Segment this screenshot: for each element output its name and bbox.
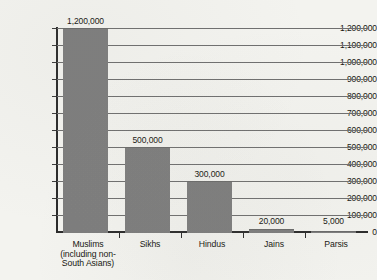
value-label-jains: 20,000 bbox=[249, 216, 294, 226]
value-label-hindus: 300,000 bbox=[187, 169, 232, 179]
x-axis-label-jains: Jains bbox=[243, 240, 305, 250]
x-axis-label-parsis-line1: Parsis bbox=[324, 239, 348, 249]
bar-sikhs bbox=[125, 147, 170, 233]
x-tick-3 bbox=[243, 233, 244, 238]
x-tick-4 bbox=[305, 233, 306, 238]
bar-parsis bbox=[311, 231, 356, 233]
x-axis-label-muslims: Muslims (including non- South Asians) bbox=[57, 240, 119, 269]
bar-hindus bbox=[187, 181, 232, 233]
x-axis-label-jains-line1: Jains bbox=[264, 239, 284, 249]
bar-muslims bbox=[63, 28, 108, 233]
value-label-parsis: 5,000 bbox=[311, 216, 356, 226]
x-axis-label-hindus-line1: Hindus bbox=[199, 239, 225, 249]
x-axis-label-parsis: Parsis bbox=[305, 240, 367, 250]
bar-chart: 1,200,000 1,100,000 1,000,000 900,000 80… bbox=[0, 0, 377, 280]
x-axis-label-sikhs-line1: Sikhs bbox=[140, 239, 161, 249]
x-axis-label-muslims-line3: South Asians) bbox=[57, 259, 119, 269]
x-axis-label-muslims-line1: Muslims bbox=[72, 239, 103, 249]
plot-area bbox=[57, 28, 368, 232]
value-label-sikhs: 500,000 bbox=[125, 135, 170, 145]
bar-jains bbox=[249, 229, 294, 233]
x-axis-label-hindus: Hindus bbox=[181, 240, 243, 250]
x-axis-label-sikhs: Sikhs bbox=[119, 240, 181, 250]
value-label-muslims: 1,200,000 bbox=[63, 16, 108, 26]
x-tick-1 bbox=[119, 233, 120, 238]
x-tick-2 bbox=[181, 233, 182, 238]
